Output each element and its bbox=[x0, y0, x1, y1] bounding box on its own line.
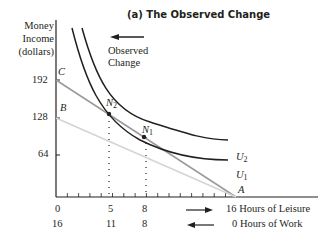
arrow-right-icon bbox=[205, 207, 213, 213]
observed-line2: Change bbox=[108, 57, 148, 69]
work-tick-8: 8 bbox=[142, 218, 147, 229]
work-tick-11: 11 bbox=[106, 218, 116, 229]
leisure-end-label: 16 Hours of Leisure bbox=[226, 203, 310, 214]
point-label-b: B bbox=[60, 102, 66, 113]
work-tick-16: 16 bbox=[52, 218, 63, 229]
arrow-left-icon bbox=[187, 222, 195, 228]
curve-u2 bbox=[82, 28, 228, 140]
point-n2 bbox=[107, 112, 111, 116]
curve-u1 bbox=[72, 28, 228, 160]
y-tick-192: 192 bbox=[32, 74, 48, 85]
observed-line1: Observed bbox=[108, 45, 148, 57]
arrow-left-icon bbox=[110, 34, 119, 40]
y-tick-64: 64 bbox=[38, 148, 49, 159]
point-label-a: A bbox=[238, 184, 244, 195]
curve-label-u2: U2 bbox=[236, 151, 248, 164]
leisure-tick-0: 0 bbox=[55, 203, 60, 214]
observed-change-label: Observed Change bbox=[108, 45, 148, 69]
curve-label-u1: U1 bbox=[236, 169, 248, 182]
point-label-n1: N1 bbox=[142, 124, 153, 137]
leisure-tick-5: 5 bbox=[108, 203, 113, 214]
y-tick-128: 128 bbox=[32, 111, 48, 122]
work-end-label: 0 Hours of Work bbox=[232, 218, 302, 229]
point-label-c: C bbox=[58, 66, 65, 77]
point-label-n2: N2 bbox=[106, 97, 117, 110]
leisure-tick-8: 8 bbox=[142, 203, 147, 214]
